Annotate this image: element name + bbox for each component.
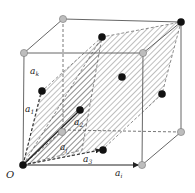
label-a-k: ak: [30, 66, 39, 77]
cubic-lattice-diagram: ak a1 a2 aj a3 ai O: [0, 0, 195, 193]
label-a-3: a3: [83, 154, 92, 165]
label-origin: O: [6, 169, 14, 180]
label-a-1: a1: [25, 104, 34, 115]
label-a-i: ai: [115, 168, 122, 179]
